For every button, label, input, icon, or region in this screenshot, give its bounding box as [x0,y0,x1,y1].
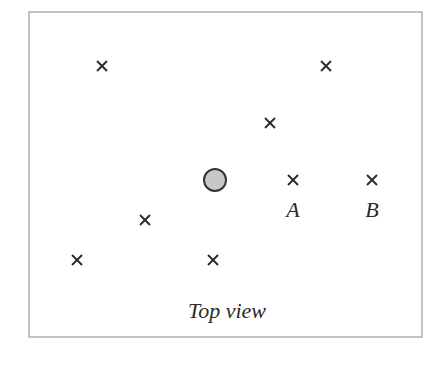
diagram-caption: Top view [188,298,266,323]
label-a: A [284,197,300,222]
top-view-diagram: A B Top view [0,0,444,366]
central-object-circle [204,169,226,191]
label-b: B [365,197,378,222]
